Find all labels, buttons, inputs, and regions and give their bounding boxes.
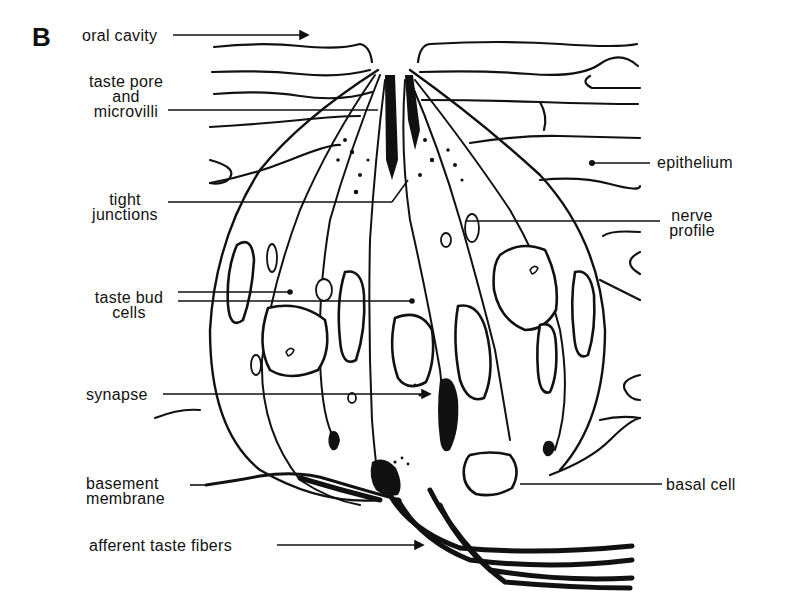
label-tight-junctions-line2: junctions <box>84 207 166 222</box>
cell-nuclei <box>228 242 595 495</box>
label-nerve-profile-line2: profile <box>662 223 722 238</box>
label-basement-membrane: basement membrane <box>86 476 165 506</box>
label-synapse: synapse <box>86 387 148 402</box>
label-taste-bud-cells-line1: taste bud <box>84 290 174 305</box>
label-basement-membrane-line1: basement <box>86 476 165 491</box>
label-taste-pore-line1: taste pore <box>82 74 170 89</box>
label-basal-cell: basal cell <box>666 477 736 492</box>
label-taste-pore: taste pore and microvilli <box>82 74 170 119</box>
label-tight-junctions: tight junctions <box>84 192 166 222</box>
label-taste-bud-cells-line2: cells <box>84 305 174 320</box>
label-taste-pore-line2: and <box>82 89 170 104</box>
label-taste-bud-cells: taste bud cells <box>84 290 174 320</box>
label-taste-pore-line3: microvilli <box>82 104 170 119</box>
afferent-taste-fibers <box>300 478 632 588</box>
label-oral-cavity: oral cavity <box>82 28 157 43</box>
label-tight-junctions-line1: tight <box>84 192 166 207</box>
label-epithelium: epithelium <box>657 155 733 170</box>
label-nerve-profile: nerve profile <box>662 208 722 238</box>
label-nerve-profile-line1: nerve <box>662 208 722 223</box>
label-afferent-taste-fibers: afferent taste fibers <box>89 538 232 553</box>
label-basement-membrane-line2: membrane <box>86 491 165 506</box>
